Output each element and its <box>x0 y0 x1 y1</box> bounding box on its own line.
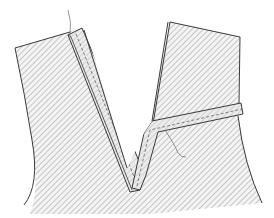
sewing-diagram <box>0 0 274 218</box>
v-neck-binding-illustration <box>0 0 274 218</box>
